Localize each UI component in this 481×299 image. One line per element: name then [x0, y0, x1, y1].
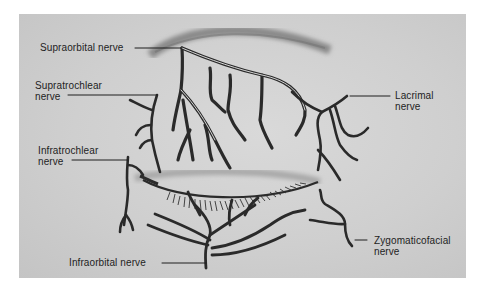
label-line: Lacrimal	[395, 90, 434, 101]
zygomaticofacial-nerve	[310, 190, 352, 246]
label-supratrochlear-nerve: Supratrochlear nerve	[35, 80, 102, 102]
infratrochlear-nerve	[120, 157, 143, 232]
supraorbital-nerve-highlight	[181, 48, 305, 140]
label-line: nerve	[374, 246, 451, 257]
supratrochlear-nerve	[130, 95, 160, 172]
label-line: nerve	[395, 101, 434, 112]
label-line: Supraorbital nerve	[40, 42, 124, 53]
label-line: nerve	[35, 91, 102, 102]
label-line: Infratrochlear	[38, 145, 98, 156]
supraorbital-nerve	[173, 48, 305, 168]
label-line: Infraorbital nerve	[69, 257, 146, 268]
label-line: Supratrochlear	[35, 80, 102, 91]
lid-crease-shading	[135, 172, 320, 182]
infraorbital-nerve	[148, 192, 305, 268]
label-zygomaticofacial-nerve: Zygomaticofacial nerve	[374, 235, 451, 257]
label-infratrochlear-nerve: Infratrochlear nerve	[38, 145, 98, 167]
label-lacrimal-nerve: Lacrimal nerve	[395, 90, 434, 112]
label-line: nerve	[38, 156, 98, 167]
label-infraorbital-nerve: Infraorbital nerve	[69, 257, 146, 268]
label-supraorbital-nerve: Supraorbital nerve	[40, 42, 124, 53]
label-line: Zygomaticofacial	[374, 235, 451, 246]
